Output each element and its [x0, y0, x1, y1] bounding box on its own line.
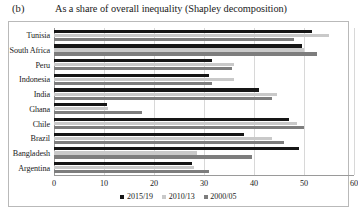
bar	[54, 162, 192, 165]
bar	[54, 147, 299, 150]
legend-label: 2015/19	[127, 192, 153, 201]
x-tick-60: 60	[350, 179, 358, 188]
bar	[54, 133, 244, 136]
legend-swatch-icon	[204, 195, 208, 199]
bar-group: Tunisia	[54, 28, 354, 43]
category-label-south-africa: South Africa	[10, 46, 50, 55]
x-tick-labels: 0102030405060	[54, 179, 354, 191]
chart-frame: TunisiaSouth AfricaPeruIndonesiaIndiaGha…	[8, 21, 349, 207]
bar-group: Chile	[54, 116, 354, 131]
bar-group: India	[54, 87, 354, 102]
x-tick-40: 40	[250, 179, 258, 188]
bar-group: Indonesia	[54, 72, 354, 87]
bar-rows: TunisiaSouth AfricaPeruIndonesiaIndiaGha…	[54, 28, 354, 175]
chart-legend: 2015/192010/132000/05	[9, 192, 348, 201]
bar	[54, 48, 304, 51]
category-label-india: India	[34, 90, 50, 99]
bar	[54, 111, 142, 114]
x-tick-30: 30	[200, 179, 208, 188]
bar-group: Bangladesh	[54, 146, 354, 161]
category-label-peru: Peru	[35, 60, 50, 69]
legend-item[interactable]: 2010/13	[162, 192, 195, 201]
bar	[54, 78, 234, 81]
bar	[54, 97, 272, 100]
bar	[54, 137, 272, 140]
bar	[54, 126, 304, 129]
category-label-indonesia: Indonesia	[19, 75, 50, 84]
bar-group: Peru	[54, 57, 354, 72]
bar	[54, 82, 212, 85]
panel-letter: (b)	[12, 3, 25, 14]
x-tick-50: 50	[300, 179, 308, 188]
bar	[54, 170, 209, 173]
category-label-argentina: Argentina	[18, 163, 50, 172]
bar	[54, 103, 107, 106]
bar	[54, 38, 294, 41]
legend-swatch-icon	[120, 195, 124, 199]
category-label-brazil: Brazil	[31, 134, 50, 143]
category-label-ghana: Ghana	[29, 104, 50, 113]
legend-item[interactable]: 2015/19	[120, 192, 153, 201]
x-tick-10: 10	[100, 179, 108, 188]
legend-item[interactable]: 2000/05	[204, 192, 237, 201]
chart-inner: TunisiaSouth AfricaPeruIndonesiaIndiaGha…	[9, 22, 348, 206]
bar	[54, 63, 234, 66]
bar	[54, 155, 252, 158]
bar-group: South Africa	[54, 43, 354, 58]
bar	[54, 166, 194, 169]
bar-group: Ghana	[54, 102, 354, 117]
figure-caption: (b) As a share of overall inequality (Sh…	[0, 3, 357, 20]
bar	[54, 44, 302, 47]
category-label-chile: Chile	[33, 119, 50, 128]
bar	[54, 122, 297, 125]
legend-label: 2000/05	[210, 192, 236, 201]
bar	[54, 151, 197, 154]
x-axis-line	[54, 175, 354, 176]
bar	[54, 59, 212, 62]
bar	[54, 34, 329, 37]
x-tick-0: 0	[52, 179, 56, 188]
category-label-tunisia: Tunisia	[26, 31, 50, 40]
category-label-bangladesh: Bangladesh	[13, 148, 50, 157]
plot-area: TunisiaSouth AfricaPeruIndonesiaIndiaGha…	[54, 28, 354, 175]
legend-label: 2010/13	[169, 192, 195, 201]
bar	[54, 118, 289, 121]
bar-group: Argentina	[54, 160, 354, 175]
bar	[54, 93, 277, 96]
x-tick-20: 20	[150, 179, 158, 188]
gridline-60	[354, 28, 355, 175]
bar-group: Brazil	[54, 131, 354, 146]
bar	[54, 67, 232, 70]
bar	[54, 141, 284, 144]
bar	[54, 52, 317, 55]
bar	[54, 74, 209, 77]
figure-title: As a share of overall inequality (Shaple…	[55, 3, 350, 14]
bar	[54, 88, 259, 91]
bar	[54, 107, 108, 110]
bar	[54, 30, 312, 33]
legend-swatch-icon	[162, 195, 166, 199]
